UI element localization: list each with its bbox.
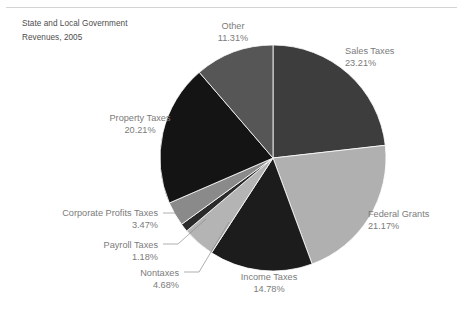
slice-label-property-taxes: Property Taxes 20.21% [92,113,188,136]
pie-chart-figure: State and Local Government Revenues, 200… [0,0,463,310]
slice-label-payroll-taxes: Payroll Taxes 1.18% [86,240,158,263]
slice-label-federal-grants: Federal Grants 21.17% [368,209,460,232]
slice-label-income-taxes: Income Taxes 14.78% [228,272,310,295]
slice-label-corporate-profits-taxes: Corporate Profits Taxes 3.47% [41,208,158,231]
slice-label-sales-taxes: Sales Taxes 23.21% [345,46,455,69]
slice-label-nontaxes: Nontaxes 4.68% [113,268,179,291]
slice-label-other: Other 11.31% [200,21,266,44]
pie-slice-group [160,45,386,271]
